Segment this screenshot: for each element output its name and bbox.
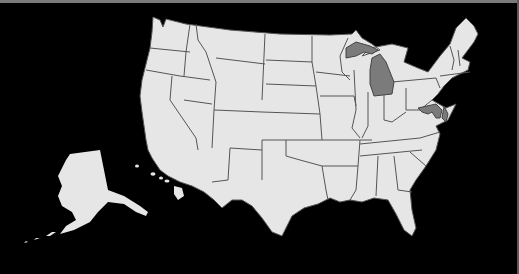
us-map: Michigan Maryland Alaska Hawaii: [0, 0, 519, 274]
alaska-aleutians: [24, 232, 56, 243]
map-svg: [0, 0, 519, 274]
inset-alaska: [58, 150, 148, 234]
contiguous-us: [140, 17, 478, 236]
